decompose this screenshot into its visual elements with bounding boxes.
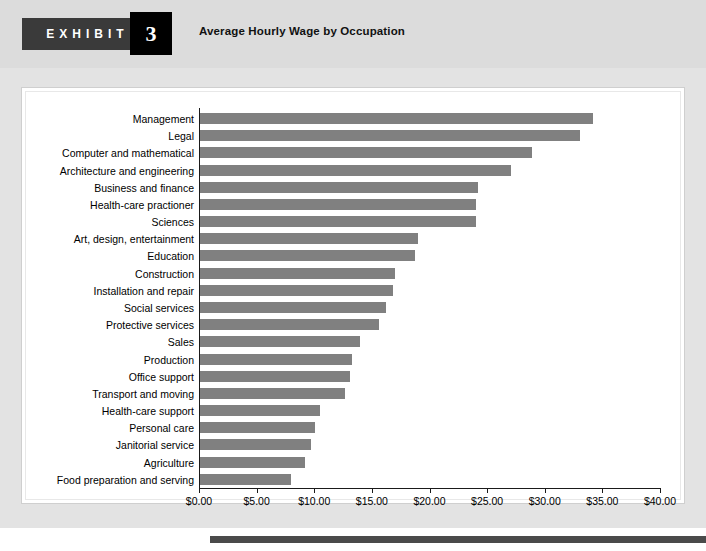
category-label: Transport and moving — [4, 385, 194, 403]
bar — [199, 250, 415, 261]
bar-row — [199, 196, 660, 214]
x-axis-tick-label: $30.00 — [515, 495, 575, 507]
bar-row — [199, 110, 660, 128]
bar-row — [199, 351, 660, 369]
x-axis-tick-label: $5.00 — [227, 495, 287, 507]
category-label: Sales — [4, 333, 194, 351]
bar-row — [199, 454, 660, 472]
bar — [199, 268, 395, 279]
x-axis-tick-label: $10.00 — [284, 495, 344, 507]
bar — [199, 165, 511, 176]
category-label: Art, design, entertainment — [4, 230, 194, 248]
bar-row — [199, 436, 660, 454]
bar-row — [199, 299, 660, 317]
category-label: Food preparation and serving — [4, 471, 194, 489]
bar — [199, 199, 476, 210]
x-axis-tick — [430, 488, 431, 493]
category-label: Installation and repair — [4, 282, 194, 300]
x-axis-tick — [257, 488, 258, 493]
category-label: Office support — [4, 368, 194, 386]
bar — [199, 422, 315, 433]
bar-row — [199, 316, 660, 334]
exhibit-label: EXHIBIT — [41, 27, 128, 41]
bar-row — [199, 247, 660, 265]
category-label: Health-care support — [4, 402, 194, 420]
exhibit-page: EXHIBIT 3 Average Hourly Wage by Occupat… — [0, 0, 706, 551]
x-axis-tick-label: $15.00 — [342, 495, 402, 507]
category-label: Agriculture — [4, 454, 194, 472]
category-label: Education — [4, 247, 194, 265]
bar — [199, 302, 386, 313]
category-label: Personal care — [4, 419, 194, 437]
x-axis-tick-label: $20.00 — [400, 495, 460, 507]
bar — [199, 319, 379, 330]
x-axis-tick — [660, 488, 661, 493]
category-label: Management — [4, 110, 194, 128]
bar — [199, 439, 311, 450]
category-label: Health-care practioner — [4, 196, 194, 214]
bar — [199, 457, 305, 468]
category-label: Janitorial service — [4, 436, 194, 454]
bar-row — [199, 368, 660, 386]
bar — [199, 216, 476, 227]
bottom-rule — [210, 536, 706, 543]
bar — [199, 474, 291, 485]
category-label: Business and finance — [4, 179, 194, 197]
bar-row — [199, 265, 660, 283]
x-axis-tick-label: $40.00 — [630, 495, 690, 507]
x-axis-tick-label: $35.00 — [572, 495, 632, 507]
x-axis-tick — [199, 488, 200, 493]
exhibit-number: 3 — [146, 21, 157, 47]
bar-row — [199, 127, 660, 145]
category-label: Architecture and engineering — [4, 162, 194, 180]
bar-row — [199, 282, 660, 300]
bar-row — [199, 333, 660, 351]
bar — [199, 182, 478, 193]
bar-row — [199, 179, 660, 197]
page-title: Average Hourly Wage by Occupation — [199, 25, 405, 37]
x-axis-tick-label: $25.00 — [457, 495, 517, 507]
bar — [199, 285, 393, 296]
bar — [199, 354, 352, 365]
category-label: Computer and mathematical — [4, 144, 194, 162]
bar — [199, 371, 350, 382]
bar — [199, 147, 532, 158]
category-label: Construction — [4, 265, 194, 283]
x-axis-tick-label: $0.00 — [169, 495, 229, 507]
bar-row — [199, 402, 660, 420]
category-label: Production — [4, 351, 194, 369]
bar-row — [199, 213, 660, 231]
bar-row — [199, 385, 660, 403]
bar — [199, 233, 418, 244]
category-label: Sciences — [4, 213, 194, 231]
category-label: Protective services — [4, 316, 194, 334]
bar-row — [199, 162, 660, 180]
category-label: Legal — [4, 127, 194, 145]
plot-area — [199, 110, 660, 488]
bar — [199, 130, 580, 141]
exhibit-number-box: 3 — [130, 12, 172, 55]
bar-row — [199, 471, 660, 489]
category-axis-labels: ManagementLegalComputer and mathematical… — [2, 110, 194, 488]
x-axis-tick — [372, 488, 373, 493]
x-axis-tick — [602, 488, 603, 493]
bar — [199, 405, 320, 416]
category-label: Social services — [4, 299, 194, 317]
bar-row — [199, 230, 660, 248]
x-axis-tick — [314, 488, 315, 493]
bar-row — [199, 144, 660, 162]
x-axis-tick — [545, 488, 546, 493]
x-axis-tick — [487, 488, 488, 493]
y-axis-line — [199, 108, 200, 489]
bar — [199, 336, 360, 347]
bar — [199, 113, 593, 124]
bar — [199, 388, 345, 399]
bar-row — [199, 419, 660, 437]
